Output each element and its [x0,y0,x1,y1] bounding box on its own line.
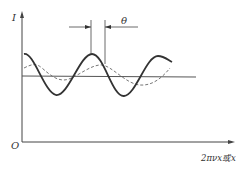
interference-diagram: θ I O 2πνx或x [0,0,248,172]
phase-arrowhead-right-icon [105,25,111,29]
phase-label: θ [121,15,127,26]
phase-arrowhead-left-icon [85,25,91,29]
x-axis-label: 2πνx或x [200,153,236,163]
dashed-wave [24,65,170,85]
y-axis-arrow-icon [20,11,24,18]
solid-wave [24,54,172,96]
origin-label: O [11,140,19,151]
y-axis-label: I [11,12,17,23]
x-axis-arrow-icon [228,140,235,144]
